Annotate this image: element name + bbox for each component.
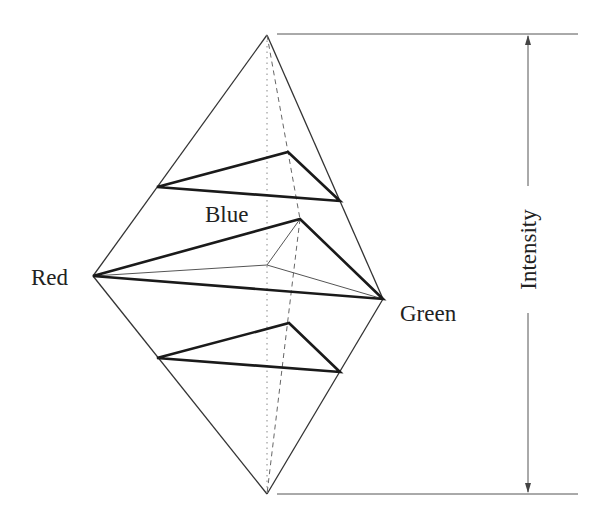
upper-cross-section (157, 152, 340, 201)
intensity-label: Intensity (517, 200, 540, 300)
arrow-up-icon (525, 35, 531, 45)
arrow-down-icon (525, 483, 531, 493)
blue-label: Blue (205, 203, 248, 226)
cross-sections (93, 152, 383, 372)
middle-cross-section (93, 219, 383, 299)
hidden-edges (267, 35, 300, 494)
red-label: Red (31, 266, 68, 289)
green-label: Green (400, 302, 456, 325)
lower-cross-section (157, 323, 340, 372)
